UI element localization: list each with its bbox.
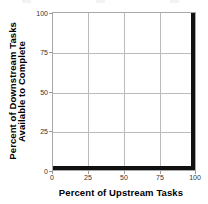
x-tick-label-100: 100 [189,174,201,181]
y-tick-label-100: 100 [36,10,48,17]
y-tick-label-25: 25 [40,128,48,135]
y-tick-label-50: 50 [40,89,48,96]
x-tick-label-25: 25 [84,174,92,181]
x-tick-label-0: 0 [50,174,54,181]
data-series-horizontal-segment [53,166,195,170]
x-tick-label-50: 50 [120,174,128,181]
y-tick-label-75: 75 [40,49,48,56]
cropped-artifact-mark [170,0,179,3]
gridline-y-50 [53,93,195,94]
y-tick-mark-50 [49,92,52,93]
chart-figure: Percent of Downstream Tasks Available to… [0,0,208,204]
gridline-x-75 [160,13,161,170]
y-tick-mark-75 [49,52,52,53]
cropped-artifact-mark [96,0,105,3]
y-tick-mark-25 [49,131,52,132]
y-tick-label-0: 0 [44,168,48,175]
gridline-x-50 [124,13,125,170]
gridline-x-25 [88,13,89,170]
y-axis-title: Percent of Downstream Tasks Available to… [0,0,34,182]
y-tick-mark-100 [49,13,52,14]
data-series-vertical-segment [191,13,195,170]
gridline-y-25 [53,132,195,133]
y-axis-title-line-2: Available to Complete [17,41,27,142]
x-tick-label-75: 75 [156,174,164,181]
y-tick-mark-0 [49,171,52,172]
plot-area [52,12,196,171]
gridline-y-75 [53,53,195,54]
x-axis-title: Percent of Upstream Tasks [34,187,208,198]
